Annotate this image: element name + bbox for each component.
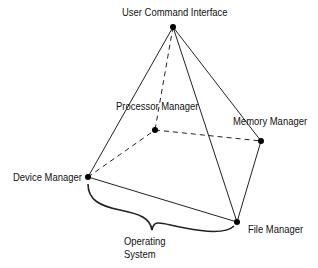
- edge-device-processor: [88, 130, 155, 177]
- label-file-manager: File Manager: [248, 223, 303, 235]
- edge-device-file: [88, 177, 237, 222]
- label-user-command-interface: User Command Interface: [122, 6, 228, 18]
- node-memory-dot: [258, 138, 264, 144]
- label-memory-manager: Memory Manager: [233, 115, 307, 127]
- node-processor-dot: [152, 127, 158, 133]
- edge-file-memory: [237, 141, 261, 222]
- edge-apex-file: [173, 27, 237, 222]
- label-processor-manager: Processor Manager: [116, 100, 198, 112]
- node-apex-dot: [170, 24, 176, 30]
- label-system: System: [124, 248, 156, 260]
- os-pyramid-diagram: User Command Interface Processor Manager…: [0, 0, 318, 268]
- node-file-dot: [234, 219, 240, 225]
- label-operating: Operating: [124, 235, 166, 247]
- edge-processor-memory: [155, 130, 261, 141]
- node-device-dot: [85, 174, 91, 180]
- operating-system-brace: [88, 184, 234, 232]
- label-device-manager: Device Manager: [13, 171, 82, 183]
